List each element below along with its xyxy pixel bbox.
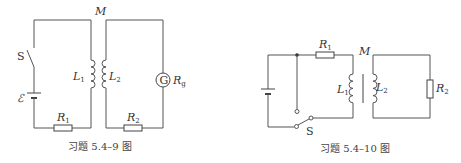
emf-label: ℰ bbox=[17, 92, 25, 105]
figure-5-4-9: M S ℰ L1 L2 R1 R2 G Rg 习题 5.4–9 图 bbox=[17, 5, 186, 152]
r1-label: R1 bbox=[318, 38, 332, 52]
switch-s[interactable] bbox=[27, 50, 34, 67]
galvanometer-label: G bbox=[160, 74, 169, 87]
r2-label: R2 bbox=[435, 82, 449, 96]
wire bbox=[72, 88, 91, 128]
l2-label: L2 bbox=[375, 81, 388, 95]
figure-caption: 习题 5.4–9 图 bbox=[68, 141, 132, 152]
switch-contact bbox=[295, 110, 299, 114]
circuit-diagrams: M S ℰ L1 L2 R1 R2 G Rg 习题 5.4–9 图 bbox=[0, 0, 461, 163]
mutual-label: M bbox=[358, 45, 371, 58]
r2-label: R2 bbox=[126, 111, 140, 125]
wire bbox=[34, 20, 91, 60]
figure-caption: 习题 5.4–10 图 bbox=[320, 143, 390, 154]
switch-pivot bbox=[295, 125, 299, 129]
l1-label: L1 bbox=[336, 83, 349, 97]
wire bbox=[106, 88, 124, 128]
resistor-r1 bbox=[54, 125, 72, 131]
wire bbox=[34, 101, 54, 128]
switch-label: S bbox=[306, 125, 314, 138]
wire bbox=[334, 55, 353, 74]
inductor-l1-icon bbox=[349, 74, 353, 103]
rg-label: Rg bbox=[172, 74, 186, 88]
inductor-l2-icon bbox=[102, 60, 106, 88]
switch-label: S bbox=[17, 50, 25, 63]
figure-5-4-10: R1 M L1 L2 R2 S 习题 5.4–10 图 bbox=[261, 38, 449, 154]
switch-contact bbox=[309, 116, 313, 120]
wire bbox=[106, 20, 163, 73]
resistor-r2 bbox=[124, 125, 142, 131]
l2-label: L2 bbox=[108, 70, 121, 84]
inductor-l1-icon bbox=[91, 60, 95, 88]
resistor-r2 bbox=[427, 80, 433, 98]
wire bbox=[373, 98, 430, 118]
wire bbox=[268, 55, 316, 89]
wire bbox=[373, 55, 430, 80]
wire bbox=[313, 103, 353, 118]
mutual-label: M bbox=[94, 5, 107, 18]
battery-icon bbox=[27, 93, 41, 101]
l1-label: L1 bbox=[72, 70, 85, 84]
resistor-r1 bbox=[316, 52, 334, 58]
r1-label: R1 bbox=[56, 111, 70, 125]
wire bbox=[142, 87, 163, 128]
battery-icon bbox=[261, 89, 275, 127]
